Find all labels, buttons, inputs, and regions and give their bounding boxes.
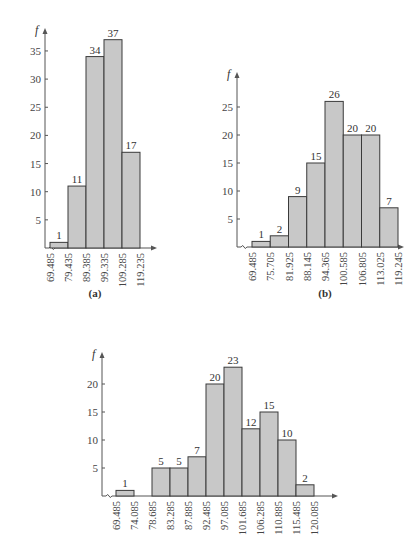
bar-value-label: 11: [72, 173, 83, 185]
histogram-bar: [50, 242, 68, 248]
y-axis-label: f: [92, 347, 97, 361]
histogram-bar: [343, 135, 361, 247]
x-tick-label: 69.485: [111, 501, 122, 530]
bar-value-label: 17: [126, 139, 138, 151]
histogram-bar: [278, 440, 296, 496]
bar-value-label: 37: [108, 27, 120, 39]
bar-value-label: 20: [365, 122, 377, 134]
y-tick-label: 15: [87, 406, 99, 418]
histogram-bar: [270, 236, 288, 247]
x-tick-label: 106.285: [255, 501, 266, 535]
y-axis-arrow-icon: [100, 352, 105, 358]
x-tick-label: 97.085: [219, 501, 230, 530]
axis-break-icon: [102, 495, 112, 498]
x-tick-label: 115.485: [291, 501, 302, 535]
bar-value-label: 5: [158, 455, 164, 467]
histogram-bar: [289, 197, 307, 247]
y-tick-label: 20: [30, 129, 42, 141]
x-tick-label: 106.805: [357, 252, 368, 286]
x-tick-label: 99.335: [99, 253, 110, 282]
x-tick-label: 119.245: [393, 252, 404, 286]
histogram-bar: [206, 384, 224, 496]
y-tick-label: 25: [222, 101, 234, 113]
bar-value-label: 1: [122, 477, 128, 489]
x-tick-label: 88.145: [302, 252, 313, 281]
x-tick-label: 92.485: [201, 501, 212, 530]
y-tick-label: 15: [30, 158, 42, 170]
x-tick-label: 110.885: [273, 501, 284, 535]
x-tick-label: 120.085: [309, 501, 320, 535]
histogram-bar: [170, 468, 188, 496]
x-tick-label: 74.085: [129, 501, 140, 530]
histogram-bar: [116, 490, 134, 496]
x-tick-label: 87.885: [183, 501, 194, 530]
x-tick-label: 78.685: [147, 501, 158, 530]
x-tick-label: 79.435: [63, 253, 74, 282]
bar-value-label: 23: [228, 354, 240, 366]
bar-value-label: 15: [264, 399, 276, 411]
y-axis-label: f: [35, 23, 40, 37]
histogram-bar: [188, 457, 206, 496]
x-tick-label: 75.705: [265, 252, 276, 281]
x-tick-label: 81.925: [284, 252, 295, 281]
histogram-b: f51015202512915262020769.48575.70581.925…: [222, 67, 404, 300]
y-tick-label: 10: [87, 434, 99, 446]
bar-value-label: 12: [246, 416, 257, 428]
bar-value-label: 5: [176, 455, 182, 467]
y-tick-label: 10: [30, 186, 42, 198]
histogram-bar: [307, 163, 325, 247]
histogram-bar: [325, 101, 343, 247]
x-tick-label: 94.365: [320, 252, 331, 281]
bar-value-label: 1: [56, 229, 62, 241]
y-axis-arrow-icon: [43, 28, 48, 34]
x-tick-label: 100.585: [338, 252, 349, 286]
y-tick-label: 5: [93, 462, 99, 474]
bar-value-label: 34: [90, 44, 102, 56]
bar-value-label: 2: [302, 472, 308, 484]
axis-break-icon: [237, 246, 247, 249]
histogram-bar: [260, 412, 278, 496]
y-axis-label: f: [227, 67, 232, 81]
x-tick-label: 101.685: [237, 501, 248, 535]
histogram-c: f510152015572023121510269.48574.08578.68…: [87, 347, 338, 535]
y-tick-label: 15: [222, 157, 234, 169]
y-tick-label: 5: [228, 213, 234, 225]
x-tick-label: 109.285: [117, 253, 128, 287]
bar-value-label: 9: [295, 184, 301, 196]
y-tick-label: 20: [222, 129, 234, 141]
panel-label: (a): [89, 287, 102, 300]
bar-value-label: 2: [277, 223, 283, 235]
y-tick-label: 5: [36, 214, 42, 226]
histogram-bar: [224, 367, 242, 496]
histogram-bar: [296, 485, 314, 496]
x-axis-arrow-icon: [151, 246, 157, 251]
x-axis-arrow-icon: [398, 245, 404, 250]
x-axis-arrow-icon: [332, 494, 338, 499]
y-axis-arrow-icon: [235, 72, 240, 78]
histogram-bar: [252, 241, 270, 247]
histogram-bar: [362, 135, 380, 247]
x-tick-label: 89.385: [81, 253, 92, 282]
x-tick-label: 69.485: [45, 253, 56, 282]
x-tick-label: 83.285: [165, 501, 176, 530]
y-tick-label: 25: [30, 101, 42, 113]
x-tick-label: 69.485: [247, 252, 258, 281]
bar-value-label: 7: [194, 444, 200, 456]
bar-value-label: 26: [329, 88, 341, 100]
histogram-bar: [104, 40, 122, 248]
bar-value-label: 20: [347, 122, 359, 134]
histogram-bar: [122, 152, 140, 248]
panel-label: (b): [318, 287, 332, 300]
x-tick-label: 113.025: [375, 252, 386, 286]
y-tick-label: 30: [30, 73, 42, 85]
histogram-bar: [242, 429, 260, 496]
bar-value-label: 20: [210, 371, 222, 383]
histogram-figure: f510152025303511134371769.48579.43589.38…: [0, 0, 406, 536]
bar-value-label: 7: [386, 195, 392, 207]
bar-value-label: 10: [282, 427, 294, 439]
histogram-a: f510152025303511134371769.48579.43589.38…: [30, 23, 157, 300]
histogram-bar: [380, 208, 398, 247]
histogram-bar: [68, 186, 86, 248]
y-tick-label: 10: [222, 185, 234, 197]
y-tick-label: 20: [87, 378, 99, 390]
